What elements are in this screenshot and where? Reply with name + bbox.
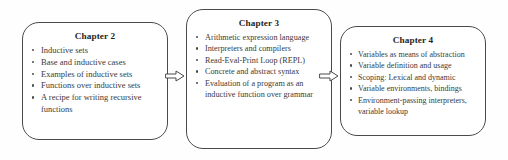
list-item-label: Scoping: Lexical and dynamic: [358, 73, 456, 82]
bullet-dot-icon: [32, 73, 34, 75]
list-item: Functions over inductive sets: [30, 80, 160, 91]
chapter-2-title: Chapter 2: [30, 31, 160, 41]
list-item: Evaluation of a program as an inductive …: [194, 78, 324, 100]
list-item: A recipe for writing recursive functions: [30, 92, 160, 115]
list-item-label: Read-Eval-Print Loop (REPL): [205, 56, 305, 65]
bullet-dot-icon: [32, 49, 34, 51]
chapter-3-title: Chapter 3: [194, 18, 324, 28]
list-item: Examples of inductive sets: [30, 69, 160, 80]
chapter-2-list: Inductive sets Base and inductive cases …: [30, 45, 160, 115]
bullet-dot-icon: [32, 96, 34, 98]
list-item-label: Environment-passing interpreters, variab…: [358, 96, 467, 116]
list-item: Inductive sets: [30, 45, 160, 56]
arrow-right-icon: [165, 70, 185, 82]
bullet-dot-icon: [350, 53, 352, 55]
list-item: Variable definition and usage: [348, 60, 478, 71]
arrow-right-icon: [319, 70, 339, 82]
list-item-label: Functions over inductive sets: [41, 80, 140, 90]
list-item-label: Evaluation of a program as an inductive …: [205, 79, 313, 99]
bullet-dot-icon: [350, 99, 352, 101]
bullet-dot-icon: [196, 59, 198, 61]
bullet-dot-icon: [196, 70, 198, 72]
list-item: Variables as means of abstraction: [348, 49, 478, 60]
list-item: Variable environments, bindings: [348, 83, 478, 94]
list-item: Concrete and abstract syntax: [194, 66, 324, 77]
list-item-label: Arithmetic expression language: [205, 33, 309, 42]
list-item-label: Variable definition and usage: [358, 61, 452, 70]
list-item: Arithmetic expression language: [194, 32, 324, 43]
list-item: Interpreters and compilers: [194, 43, 324, 54]
chapter-3-list: Arithmetic expression language Interpret…: [194, 32, 324, 100]
bullet-dot-icon: [350, 87, 352, 89]
list-item: Base and inductive cases: [30, 57, 160, 68]
list-item: Read-Eval-Print Loop (REPL): [194, 55, 324, 66]
list-item-label: Interpreters and compilers: [205, 44, 291, 53]
chapter-4-box[interactable]: Chapter 4 Variables as means of abstract…: [340, 26, 486, 136]
list-item-label: Base and inductive cases: [41, 57, 126, 67]
diagram-canvas: Chapter 2 Inductive sets Base and induct…: [0, 0, 508, 160]
list-item-label: Variables as means of abstraction: [358, 50, 465, 59]
list-item: Scoping: Lexical and dynamic: [348, 72, 478, 83]
list-item-label: Examples of inductive sets: [41, 69, 132, 79]
chapter-4-list: Variables as means of abstraction Variab…: [348, 49, 478, 117]
bullet-dot-icon: [32, 61, 34, 63]
bullet-dot-icon: [32, 84, 34, 86]
chapter-3-box[interactable]: Chapter 3 Arithmetic expression language…: [186, 9, 332, 149]
list-item-label: Variable environments, bindings: [358, 84, 462, 93]
chapter-4-title: Chapter 4: [348, 35, 478, 45]
bullet-dot-icon: [196, 82, 198, 84]
bullet-dot-icon: [196, 36, 198, 38]
list-item-label: Inductive sets: [41, 45, 88, 55]
bullet-dot-icon: [350, 76, 352, 78]
list-item: Environment-passing interpreters, variab…: [348, 95, 478, 117]
chapter-2-box[interactable]: Chapter 2 Inductive sets Base and induct…: [22, 22, 168, 140]
list-item-label: Concrete and abstract syntax: [205, 67, 299, 76]
bullet-dot-icon: [196, 47, 198, 49]
list-item-label: A recipe for writing recursive functions: [41, 92, 142, 113]
bullet-dot-icon: [350, 64, 352, 66]
